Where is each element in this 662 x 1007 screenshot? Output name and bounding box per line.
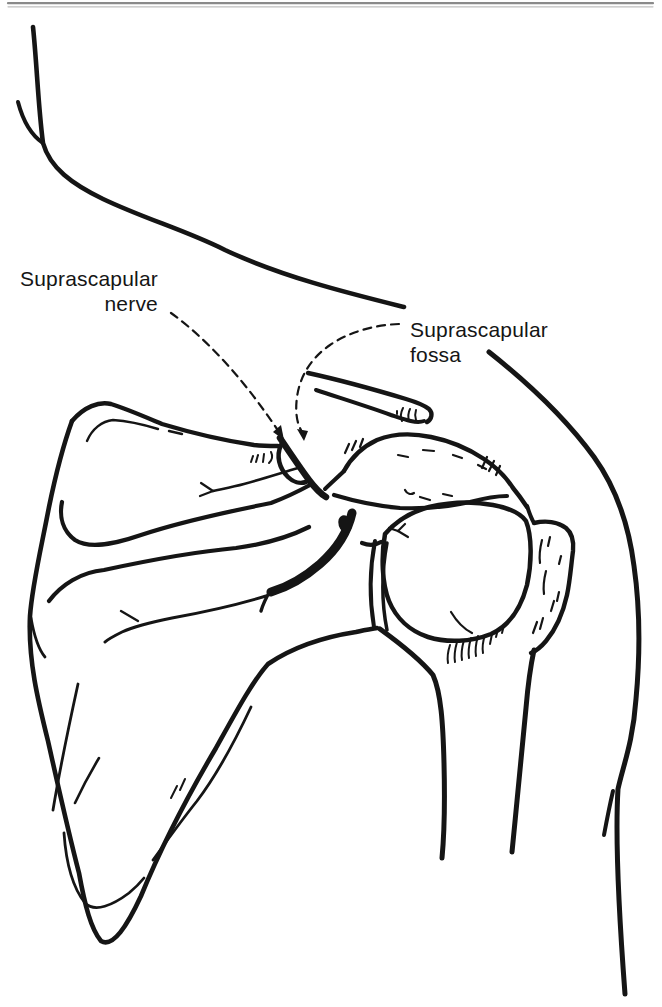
greater-tuberosity [531,522,573,653]
tuberosity-inner-dashes [533,537,561,633]
suprascapular-nerve-label-line1: Suprascapular [20,266,158,291]
page-top-rule [8,3,653,7]
suprascapular-nerve-label-line2: nerve [20,291,158,316]
suprascapular-fossa-label-line1: Suprascapular [410,317,570,342]
glenoid-rim [371,541,387,630]
fossa-arrowhead [297,429,308,441]
nerve-infraspinatus-branch [105,596,266,642]
nerve-tip-prong [261,591,270,611]
shoulder-anatomy-drawing [0,0,662,1007]
scapula-inner-contour-medial [53,684,78,810]
suprascapular-fossa-label: Suprascapular fossa [410,317,570,367]
suprascapular-nerve-label: Suprascapular nerve [20,266,158,316]
scapula-superior-border [72,403,278,446]
suprascapular-fossa-label-line2: fossa [410,342,570,367]
nerve-label-arrow [171,313,284,440]
notch-hatching [251,452,272,463]
nerve-supraspinatus-branch [213,468,298,491]
arm-outline [489,352,639,994]
suprascapular-nerve [105,438,354,642]
neck-outline [18,27,404,307]
humerus-shaft [380,625,534,858]
acromion-inner-dashes [345,439,500,500]
scapular-spine [49,485,507,601]
figure-page: Suprascapular nerve Suprascapular fossa [0,0,662,1007]
scapula-inner-contour-top [87,420,158,441]
